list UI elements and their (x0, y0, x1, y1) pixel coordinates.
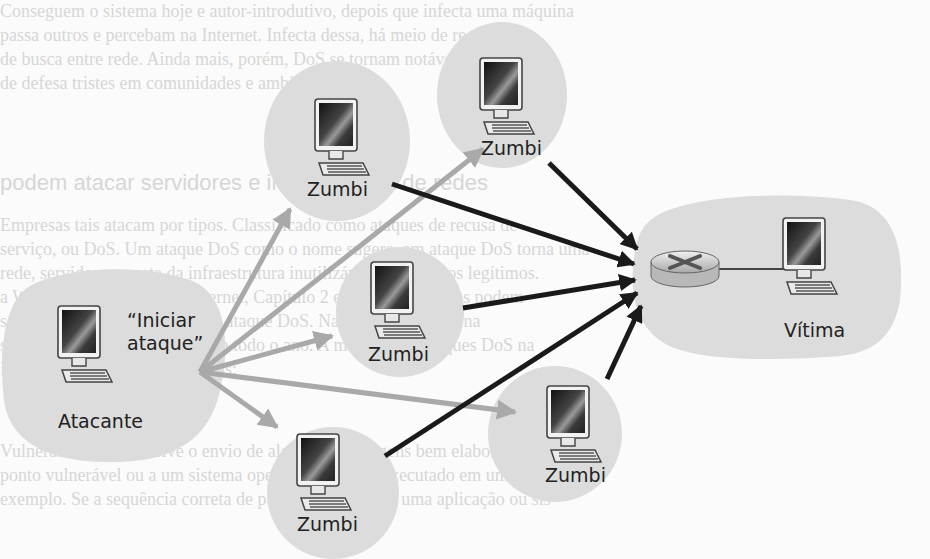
zombie-label: Zumbi (307, 178, 368, 200)
victim-label: Vítima (784, 319, 845, 341)
zombie-label: Zumbi (481, 137, 542, 159)
attacker-cloud (2, 269, 225, 462)
attacker-label: Atacante (58, 410, 143, 432)
command-label: “Iniciar (127, 309, 195, 331)
zombie-label: Zumbi (297, 513, 358, 535)
zombie-label: Zumbi (368, 343, 429, 365)
command-label: ataque” (127, 332, 203, 354)
zombie-label: Zumbi (545, 464, 606, 486)
ddos-diagram (0, 0, 930, 559)
